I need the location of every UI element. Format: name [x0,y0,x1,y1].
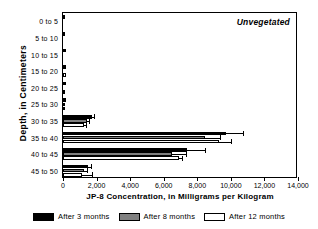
error-bar-cap [92,172,93,177]
y-axis-tick-label: 20 to 25 [31,84,58,91]
legend-swatch [204,213,225,221]
x-axis-tick-label: 2,000 [88,182,106,189]
bar [63,156,179,160]
error-bar-cap [94,114,95,119]
bar [63,119,87,123]
legend-item[interactable]: After 8 months [119,212,196,221]
error-bar-cap [243,131,244,136]
y-axis-tick-label: 45 to 50 [31,167,58,174]
y-axis-tick-label: 25 to 30 [31,101,58,108]
error-bar-cap [182,156,183,161]
x-axis-title: JP-8 Concentration, in Milligrams per Ki… [62,192,298,201]
x-axis-tick [97,177,98,181]
y-axis-tick-label: 0 to 5 [39,18,58,25]
x-axis-tick-label: 8,000 [189,182,207,189]
bar [63,123,84,127]
error-bar [187,150,205,151]
legend-label: After 12 months [229,212,285,221]
bar [63,98,66,102]
error-bar [172,154,186,155]
error-bar-cap [89,119,90,124]
x-axis-tick-label: 4,000 [121,182,139,189]
y-axis-tick-label: 35 to 40 [31,134,58,141]
x-axis-tick-label: 6,000 [155,182,173,189]
y-axis-tick-label: 40 to 45 [31,151,58,158]
bar [63,165,88,169]
bar [63,49,66,53]
legend-label: After 3 months [58,212,110,221]
error-bar [82,175,91,176]
bar-layer [63,13,296,177]
bar [63,73,66,77]
error-bar-cap [86,123,87,128]
x-axis-tick-label: 0 [61,182,65,189]
bar [63,173,82,177]
error-bar-cap [186,152,187,157]
legend-item[interactable]: After 3 months [33,212,110,221]
bar [63,15,65,19]
legend-item[interactable]: After 12 months [204,212,285,221]
y-axis-tick-label: 15 to 20 [31,68,58,75]
error-bar-cap [91,164,92,169]
x-axis-tick [130,177,131,181]
legend-swatch [119,213,140,221]
x-axis-tick-label: 14,000 [287,182,308,189]
x-axis-tick [63,177,64,181]
x-axis-tick [231,177,232,181]
error-bar [205,138,220,139]
y-axis-tick-label: 5 to 10 [35,34,58,41]
bar [63,90,65,94]
bar [63,65,66,69]
y-axis-title: Depth, in Centimeters [18,8,28,178]
legend-label: After 8 months [144,212,196,221]
x-axis-tick-label: 12,000 [254,182,275,189]
bar [63,152,172,156]
x-axis-tick [298,177,299,181]
chart-root: Depth, in Centimeters Unvegetated 02,000… [0,0,318,229]
x-axis-tick [264,177,265,181]
y-axis-tick-label: 30 to 35 [31,117,58,124]
bar [63,103,65,107]
bar [63,115,92,119]
plot-area: Unvegetated 02,0004,0006,0008,00010,0001… [62,12,297,178]
bar [63,140,219,144]
bar [63,136,205,140]
bar [63,82,66,86]
bar [63,132,226,136]
error-bar [226,133,243,134]
error-bar-cap [205,148,206,153]
bar [63,148,187,152]
bar [63,169,84,173]
x-axis-tick [197,177,198,181]
x-axis-tick-label: 10,000 [220,182,241,189]
bar [63,32,65,36]
legend-swatch [33,213,54,221]
x-axis-tick [164,177,165,181]
error-bar-cap [220,135,221,140]
bar [63,107,65,111]
error-bar [219,142,231,143]
chart-legend: After 3 monthsAfter 8 monthsAfter 12 mon… [0,212,318,221]
error-bar-cap [87,168,88,173]
error-bar-cap [231,139,232,144]
y-axis-tick-label: 10 to 15 [31,51,58,58]
